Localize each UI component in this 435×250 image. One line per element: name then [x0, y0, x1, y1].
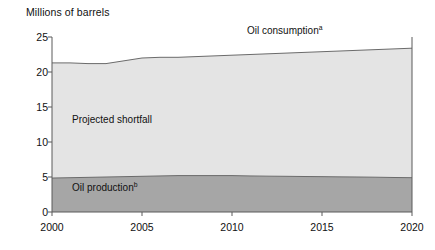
x-tick-2005: 2005 [122, 221, 162, 233]
x-tick-2010: 2010 [212, 221, 252, 233]
y-tick-20: 20 [26, 66, 48, 78]
series-label-oil-consumption-text: Oil consumption [247, 25, 319, 36]
y-tick-5: 5 [26, 171, 48, 183]
series-label-oil-production-text: Oil production [72, 182, 134, 193]
plot-area [0, 0, 435, 250]
y-tick-25: 25 [26, 31, 48, 43]
x-tick-2000: 2000 [32, 221, 72, 233]
footnote-marker-a: a [319, 24, 323, 31]
y-tick-15: 15 [26, 101, 48, 113]
series-label-oil-production: Oil productionb [72, 181, 137, 193]
region-label-projected-shortfall: Projected shortfall [72, 114, 152, 125]
oil-supply-area-chart: Millions of barrels 25 20 15 10 5 0 2000… [0, 0, 435, 250]
region-label-projected-shortfall-text: Projected shortfall [72, 114, 152, 125]
y-tick-0: 0 [26, 206, 48, 218]
y-tick-10: 10 [26, 136, 48, 148]
x-tick-2020: 2020 [392, 221, 432, 233]
series-label-oil-consumption: Oil consumptiona [247, 24, 322, 36]
footnote-marker-b: b [134, 181, 138, 188]
x-tick-2015: 2015 [302, 221, 342, 233]
